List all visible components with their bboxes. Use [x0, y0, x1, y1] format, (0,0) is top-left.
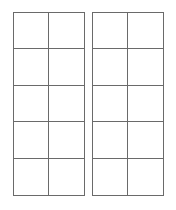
ten-frame-right — [92, 12, 164, 196]
frame-cell — [128, 122, 163, 158]
frame-cell — [93, 122, 128, 158]
frame-cell — [93, 49, 128, 85]
frame-cell — [93, 159, 128, 195]
frame-cell — [14, 122, 49, 158]
frame-cell — [49, 159, 84, 195]
frame-cell — [128, 13, 163, 49]
frame-cell — [14, 13, 49, 49]
frame-cell — [128, 159, 163, 195]
frame-cell — [14, 159, 49, 195]
frame-cell — [128, 49, 163, 85]
frame-cell — [49, 122, 84, 158]
frame-cell — [49, 49, 84, 85]
frame-cell — [128, 86, 163, 122]
frame-cell — [49, 86, 84, 122]
frame-cell — [93, 86, 128, 122]
frame-cell — [93, 13, 128, 49]
frame-cell — [14, 86, 49, 122]
ten-frame-left — [13, 12, 85, 196]
frame-cell — [14, 49, 49, 85]
frame-cell — [49, 13, 84, 49]
